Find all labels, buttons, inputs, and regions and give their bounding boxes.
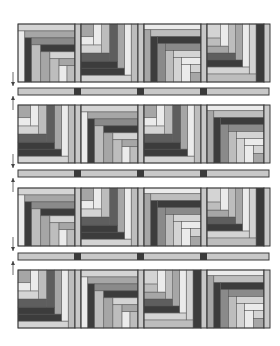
fabric-strip — [81, 225, 117, 232]
fabric-strip — [207, 238, 256, 246]
fabric-strip — [18, 195, 25, 246]
fabric-strip — [151, 194, 201, 201]
fabric-strip — [191, 237, 201, 246]
fabric-strip — [236, 188, 243, 224]
fabric-strip — [144, 118, 157, 126]
fabric-strip — [158, 270, 166, 292]
fabric-strip — [81, 232, 124, 239]
fabric-strip — [207, 46, 229, 53]
fabric-strip — [81, 188, 94, 201]
fabric-strip — [174, 51, 201, 58]
fabric-strip — [166, 215, 174, 246]
vertical-sashing-strip — [264, 105, 270, 163]
fabric-strip — [81, 105, 138, 112]
fabric-strip — [102, 188, 110, 217]
fabric-strip — [174, 58, 182, 82]
fabric-strip — [166, 51, 174, 82]
fabric-strip — [245, 304, 264, 311]
fabric-strip — [18, 126, 39, 134]
fabric-strip — [245, 139, 264, 146]
fabric-strip — [104, 133, 113, 163]
fabric-strip — [47, 270, 55, 307]
fabric-strip — [18, 31, 25, 82]
cornerstone — [74, 253, 81, 260]
fabric-strip — [32, 202, 75, 209]
fabric-strip — [39, 105, 47, 134]
fabric-strip — [110, 188, 118, 225]
fabric-strip — [144, 320, 193, 328]
vertical-sashing-strip — [75, 105, 81, 163]
arrow-down-icon — [11, 237, 15, 251]
fabric-strip — [41, 52, 50, 82]
fabric-strip — [81, 277, 88, 328]
quilt-block — [18, 270, 81, 328]
fabric-strip — [25, 202, 32, 246]
fabric-strip — [179, 270, 186, 313]
fabric-strip — [144, 142, 180, 149]
fabric-strip — [249, 188, 256, 238]
fabric-strip — [182, 65, 191, 82]
fabric-strip — [182, 58, 201, 65]
fabric-strip — [50, 52, 75, 59]
vertical-sashing-strip — [138, 188, 144, 246]
fabric-strip — [81, 270, 138, 277]
arrow-down-icon — [11, 154, 15, 168]
quilt-block — [144, 105, 207, 163]
fabric-strip — [113, 140, 122, 163]
fabric-strip — [207, 60, 242, 67]
fabric-strip — [59, 230, 67, 246]
fabric-strip — [229, 132, 237, 163]
vertical-sashing-strip — [138, 270, 144, 328]
fabric-strip — [144, 194, 151, 246]
fabric-strip — [229, 125, 264, 132]
fabric-strip — [207, 188, 221, 202]
fabric-strip — [207, 210, 229, 217]
sashing-row — [18, 170, 269, 177]
quilt-block — [81, 105, 144, 163]
fabric-strip — [18, 321, 68, 328]
fabric-strip — [214, 276, 264, 283]
fabric-strip — [18, 24, 75, 31]
quilt-block — [144, 270, 207, 328]
fabric-strip — [25, 31, 75, 38]
fabric-strip — [221, 290, 229, 328]
fabric-strip — [81, 45, 102, 53]
fabric-strip — [174, 215, 201, 222]
fabric-strip — [221, 188, 229, 210]
fabric-strip — [151, 201, 158, 246]
fabric-strip — [18, 291, 39, 299]
fabric-strip — [144, 24, 201, 30]
fabric-strip — [165, 105, 173, 134]
fabric-strip — [88, 112, 138, 119]
fabric-strip — [191, 65, 201, 73]
fabric-strip — [122, 147, 130, 163]
sashing-row — [18, 253, 269, 260]
fabric-strip — [81, 239, 131, 246]
vertical-sashing-strip — [201, 270, 207, 328]
cornerstone — [200, 253, 207, 260]
fabric-strip — [173, 270, 180, 306]
fabric-strip — [122, 305, 138, 312]
fabric-strip — [59, 66, 67, 82]
fabric-strip — [151, 30, 201, 37]
fabric-strip — [173, 105, 181, 142]
fabric-strip — [237, 132, 264, 139]
fabric-strip — [117, 24, 124, 68]
fabric-strip — [236, 24, 243, 60]
fabric-strip — [207, 217, 236, 224]
fabric-strip — [144, 313, 186, 320]
fabric-strip — [18, 314, 61, 321]
fabric-strip — [256, 24, 264, 82]
fabric-strip — [144, 299, 173, 306]
vertical-sashing-strip — [201, 188, 207, 246]
fabric-strip — [18, 299, 47, 307]
fabric-strip — [18, 270, 31, 283]
fabric-strip — [237, 304, 245, 328]
fabric-strip — [245, 311, 254, 328]
fabric-strip — [207, 202, 221, 210]
fabric-strip — [186, 270, 193, 320]
fabric-strip — [144, 306, 179, 313]
quilt-block — [18, 105, 81, 163]
fabric-strip — [242, 24, 249, 67]
fabric-strip — [174, 222, 182, 246]
